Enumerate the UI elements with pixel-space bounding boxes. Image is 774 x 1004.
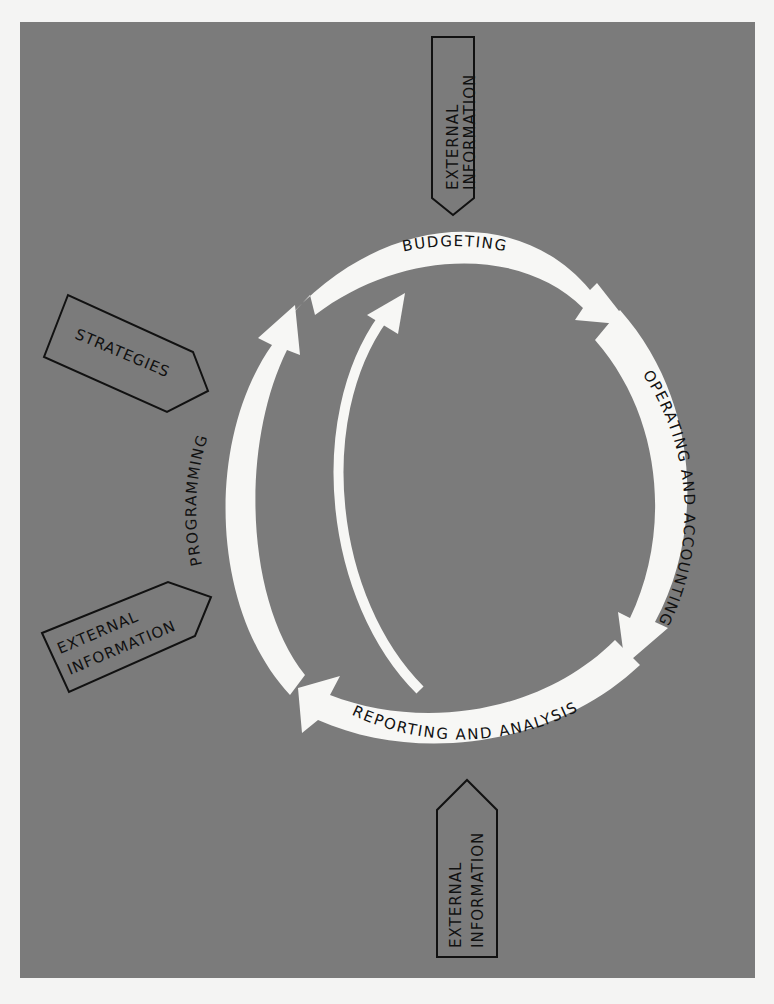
external-information-left: EXTERNAL INFORMATION (42, 582, 211, 692)
external-bottom-line1: EXTERNAL (447, 862, 465, 948)
external-information-top: EXTERNAL INFORMATION (432, 37, 479, 215)
external-bottom-line2: INFORMATION (469, 832, 487, 948)
external-top-line1: EXTERNAL (444, 104, 462, 190)
feedback-arrow (339, 293, 420, 690)
programming-label: PROGRAMMING (182, 432, 212, 568)
cycle-diagram: BUDGETING OPERATING AND ACCOUNTING REPOR… (0, 0, 774, 1004)
external-top-line2: INFORMATION (461, 74, 479, 190)
programming-arrow (226, 305, 305, 695)
strategies-label: STRATEGIES (72, 325, 172, 381)
strategies-box: STRATEGIES (44, 295, 208, 412)
external-information-bottom: EXTERNAL INFORMATION (437, 780, 497, 957)
